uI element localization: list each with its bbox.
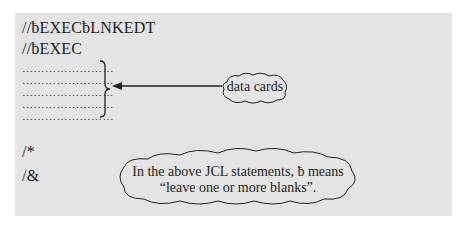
jcl-end-of-job-line: /&	[22, 167, 39, 185]
data-cards-callout: data cards	[221, 72, 289, 104]
jcl-end-of-data-line: /*	[22, 143, 35, 161]
blank-symbol-note-callout: In the above JCL statements, ƀ means “le…	[118, 145, 358, 207]
jcl-exec-lnkedt-line: //ƀEXECƀLNKEDT	[22, 19, 155, 37]
data-cards-label: data cards	[221, 79, 289, 95]
note-line-2: “leave one or more blanks”.	[118, 180, 358, 196]
jcl-exec-line: //ƀEXEC	[22, 40, 82, 58]
arrow-left-icon	[112, 80, 222, 92]
note-line-1: In the above JCL statements, ƀ means	[118, 164, 358, 180]
